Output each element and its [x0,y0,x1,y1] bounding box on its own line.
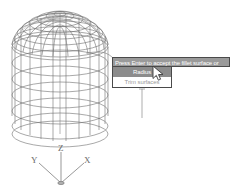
menu-item-radius[interactable]: Radius [113,67,171,77]
x-axis-label: X [84,155,91,165]
y-axis-line [39,163,61,183]
ucs-axis-tripod: Z Y X [30,143,92,191]
cad-screenshot: Press Enter to accept the fillet surface… [0,0,241,194]
menu-item-trim-surfaces[interactable]: Trim surfaces [113,77,171,87]
fillet-context-menu[interactable]: Press Enter to accept the fillet surface… [112,57,230,88]
x-axis-line [61,163,84,183]
axis-origin-marker [58,181,64,184]
context-menu-items[interactable]: Radius Trim surfaces [112,67,172,88]
context-menu-header: Press Enter to accept the fillet surface… [112,57,230,67]
z-axis-label: Z [58,143,64,153]
y-axis-label: Y [31,155,38,165]
